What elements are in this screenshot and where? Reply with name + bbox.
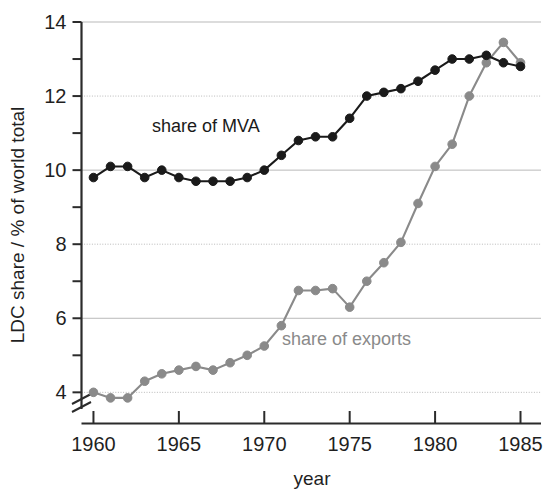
- y-tick-label: 6: [55, 307, 66, 329]
- data-point: [328, 284, 337, 293]
- y-axis-title: LDC share / % of world total: [7, 107, 28, 344]
- x-axis-title: year: [294, 468, 332, 489]
- data-point: [106, 162, 115, 171]
- data-point: [175, 173, 184, 182]
- data-point: [414, 77, 423, 86]
- data-point: [192, 177, 201, 186]
- data-point: [243, 173, 252, 182]
- data-point: [397, 84, 406, 93]
- x-tick-label: 1975: [327, 433, 372, 455]
- data-point: [414, 199, 423, 208]
- data-point: [157, 166, 166, 175]
- chart-container: 468101214 196019651970197519801985 LDC s…: [0, 0, 555, 497]
- data-point: [311, 133, 320, 142]
- data-point: [516, 62, 525, 71]
- data-point: [209, 366, 218, 375]
- y-axis-minor-ticks: [73, 59, 82, 355]
- data-point: [345, 303, 354, 312]
- data-point: [226, 177, 235, 186]
- x-tick-label: 1985: [498, 433, 543, 455]
- data-point: [140, 377, 149, 386]
- data-point: [175, 366, 184, 375]
- y-axis-tick-labels: 468101214: [44, 11, 66, 403]
- y-tick-label: 10: [44, 159, 66, 181]
- series-label-mva: share of MVA: [152, 116, 260, 136]
- data-point: [140, 173, 149, 182]
- data-point: [448, 55, 457, 64]
- series-label-exports: share of exports: [282, 329, 411, 349]
- data-point: [482, 51, 491, 60]
- y-tick-label: 14: [44, 11, 66, 33]
- data-point: [277, 151, 286, 160]
- data-point: [465, 55, 474, 64]
- data-point: [209, 177, 218, 186]
- data-point: [362, 277, 371, 286]
- data-point: [192, 362, 201, 371]
- y-tick-label: 8: [55, 233, 66, 255]
- data-point: [89, 173, 98, 182]
- ldc-share-line-chart: 468101214 196019651970197519801985 LDC s…: [0, 0, 555, 497]
- data-point: [311, 286, 320, 295]
- x-axis-ticks: [93, 411, 520, 424]
- data-point: [294, 136, 303, 145]
- x-tick-label: 1970: [242, 433, 287, 455]
- data-point: [243, 351, 252, 360]
- data-point: [380, 258, 389, 267]
- data-point: [499, 38, 508, 47]
- data-point: [380, 88, 389, 97]
- x-tick-label: 1980: [413, 433, 458, 455]
- data-point: [362, 92, 371, 101]
- data-point: [465, 92, 474, 101]
- data-point: [123, 162, 132, 171]
- data-point: [106, 394, 115, 403]
- x-tick-label: 1965: [157, 433, 202, 455]
- data-point: [157, 370, 166, 379]
- data-point: [397, 238, 406, 247]
- y-tick-label: 12: [44, 85, 66, 107]
- data-point: [448, 140, 457, 149]
- data-point: [431, 66, 440, 75]
- data-point: [328, 133, 337, 142]
- data-point: [226, 358, 235, 367]
- x-tick-label: 1960: [71, 433, 116, 455]
- data-point: [123, 394, 132, 403]
- x-axis-tick-labels: 196019651970197519801985: [71, 433, 543, 455]
- data-point: [431, 162, 440, 171]
- data-point: [260, 166, 269, 175]
- data-point: [260, 342, 269, 351]
- data-point: [89, 388, 98, 397]
- data-point: [294, 286, 303, 295]
- data-point: [345, 114, 354, 123]
- y-tick-label: 4: [55, 381, 66, 403]
- data-point: [499, 58, 508, 67]
